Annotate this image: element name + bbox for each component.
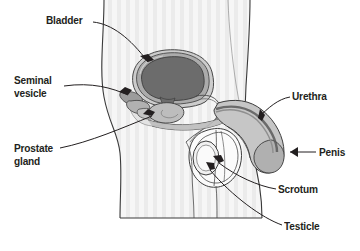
- label-scrotum: Scrotum: [278, 183, 318, 196]
- label-urethra: Urethra: [292, 90, 327, 103]
- label-penis: Penis: [319, 146, 345, 159]
- label-seminal-vesicle: Seminal vesicle: [14, 74, 52, 100]
- label-bladder: Bladder: [46, 14, 82, 27]
- label-prostate-gland: Prostate gland: [14, 142, 53, 168]
- anatomy-illustration: [0, 0, 360, 251]
- label-testicle: Testicle: [284, 220, 319, 233]
- anatomy-diagram: Bladder Seminal vesicle Prostate gland U…: [0, 0, 360, 251]
